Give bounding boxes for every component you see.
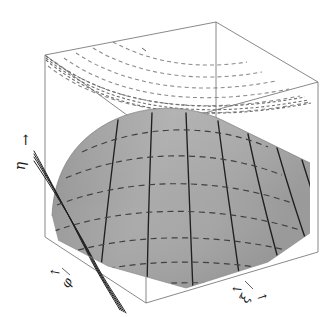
surface-plot-figure: ↑ η ↖ φ ↖ ξ → [0, 0, 332, 317]
top-contour-bundle-b [46, 58, 308, 110]
phi-letter: φ [59, 275, 75, 289]
xi-letter: ξ [237, 292, 252, 304]
top-face-projected-contours [48, 42, 310, 113]
eta-letter: η [13, 162, 27, 170]
eta-axis-label: ↑ η [14, 133, 40, 191]
top-contour-1 [113, 42, 247, 65]
phi-axis-label: ↖ φ [50, 266, 90, 294]
tick-top-face [142, 48, 146, 51]
surface-fill-vertical-shade [52, 108, 310, 288]
top-contour-bundle-a [46, 56, 305, 106]
top-contour-5 [55, 62, 300, 106]
isoline-dashed-7 [88, 283, 312, 294]
xi-arrow-tail-icon: → [255, 290, 268, 305]
top-contour-3 [76, 53, 276, 88]
surface-body [52, 108, 310, 288]
top-contour-6 [48, 66, 310, 113]
eta-arrow-icon: ↑ [20, 133, 32, 147]
xi-axis-label: ↖ ξ → [232, 283, 278, 311]
